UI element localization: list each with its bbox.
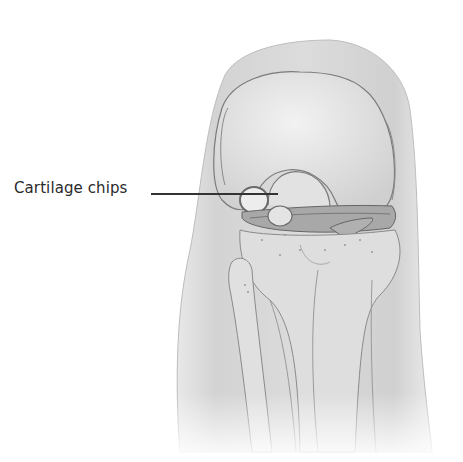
cartilage-chips-label: Cartilage chips xyxy=(14,179,128,197)
knee-drawing xyxy=(0,0,463,462)
label-leader-line xyxy=(151,193,278,195)
